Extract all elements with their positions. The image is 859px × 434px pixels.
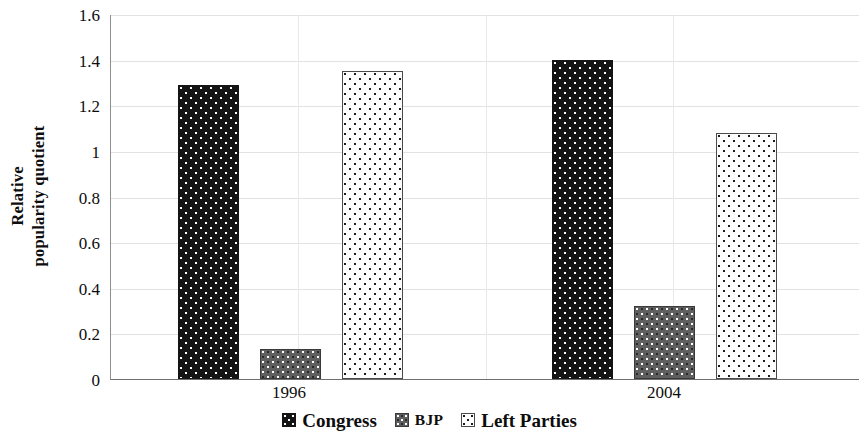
y-axis-tick-labels: 00.20.40.60.811.21.41.6 — [52, 0, 108, 392]
y-tick-label: 0.8 — [79, 189, 100, 206]
gridline-vertical — [298, 15, 299, 379]
legend-swatch-icon — [461, 413, 475, 427]
bar-congress-2004 — [552, 60, 613, 379]
x-axis-category-labels: 19962004 — [110, 382, 859, 408]
bar-bjp-2004 — [634, 306, 695, 379]
y-axis-title-line-1: Relative — [7, 126, 28, 267]
legend-swatch-icon — [395, 413, 409, 427]
gridline-horizontal — [111, 61, 859, 62]
chart-legend: CongressBJPLeft Parties — [0, 406, 859, 434]
gridline-vertical — [486, 15, 487, 379]
bar-congress-1996 — [178, 85, 239, 379]
y-tick-label: 0 — [92, 372, 101, 389]
y-tick-label: 1.6 — [79, 7, 100, 24]
legend-label: Left Parties — [481, 411, 576, 430]
y-tick-label: 0.2 — [79, 326, 100, 343]
y-tick-label: 0.6 — [79, 235, 100, 252]
legend-label: Congress — [302, 411, 377, 430]
y-tick-label: 0.4 — [79, 280, 100, 297]
legend-swatch-icon — [282, 413, 296, 427]
bar-left-parties-2004 — [716, 133, 777, 379]
bar-bjp-1996 — [260, 349, 321, 379]
bar-chart-figure: Relative popularity quotient 00.20.40.60… — [0, 0, 859, 434]
gridline-horizontal — [111, 15, 859, 16]
legend-item-left-parties[interactable]: Left Parties — [461, 411, 576, 430]
legend-label: BJP — [415, 412, 443, 428]
bar-left-parties-1996 — [342, 71, 403, 379]
y-tick-label: 1 — [92, 143, 101, 160]
y-axis-title-line-2: popularity quotient — [28, 126, 49, 267]
x-category-label-1996: 1996 — [272, 384, 306, 401]
plot-area — [110, 15, 859, 380]
x-category-label-2004: 2004 — [647, 384, 681, 401]
y-axis-title: Relative popularity quotient — [0, 0, 56, 392]
y-tick-label: 1.4 — [79, 52, 100, 69]
y-tick-label: 1.2 — [79, 98, 100, 115]
legend-item-bjp[interactable]: BJP — [395, 412, 443, 428]
legend-item-congress[interactable]: Congress — [282, 411, 377, 430]
